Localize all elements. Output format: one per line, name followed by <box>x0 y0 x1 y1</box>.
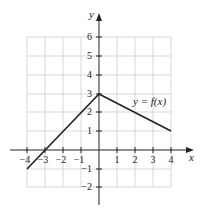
x-tick-label: 3 <box>151 154 156 165</box>
y-tick-label: 1 <box>87 125 92 136</box>
x-tick-label: 1 <box>115 154 120 165</box>
y-axis-label: y <box>88 8 94 20</box>
x-tick-label: −2 <box>56 154 67 165</box>
x-tick-label: −1 <box>74 154 85 165</box>
y-tick-label: 2 <box>87 106 92 117</box>
x-tick-label: −3 <box>38 154 49 165</box>
x-axis-label: x <box>188 151 194 163</box>
y-tick-label: 5 <box>87 50 92 61</box>
x-tick-label: 2 <box>133 154 138 165</box>
y-tick-label: −2 <box>81 181 92 192</box>
curve-label: y = f(x) <box>132 95 166 108</box>
function-graph: 6 5 4 3 2 1 −1 −2 −4 −3 −2 −1 1 2 3 4 x … <box>0 0 206 212</box>
y-axis-arrow-icon <box>96 13 102 21</box>
y-tick-label: 3 <box>87 88 92 99</box>
y-tick-label: 4 <box>87 69 92 80</box>
x-tick-label: −4 <box>20 154 31 165</box>
x-tick-label: 4 <box>169 154 174 165</box>
y-tick-label: 6 <box>87 31 92 42</box>
